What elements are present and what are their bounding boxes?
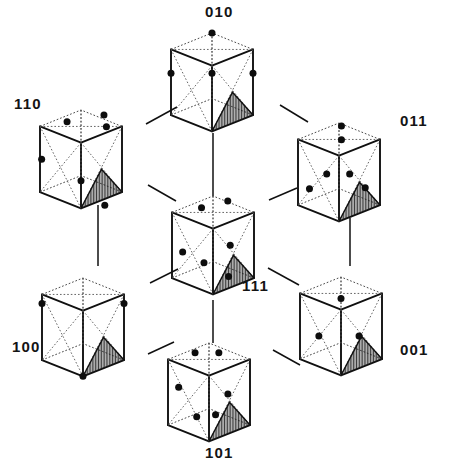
cube-010[interactable] [168,30,257,134]
atom-dot-011-0 [338,122,345,129]
atom-dot-010-1 [209,70,216,77]
cube-label-110: 110 [14,95,42,112]
hatched-triangle [339,180,379,223]
diagonal-left-face-b [42,311,83,360]
diagonal-left-face-a [171,49,212,131]
atom-dot-101-1 [215,349,222,356]
diagonal-left-face-a [298,139,339,221]
diagonal-left-face-a [172,212,213,294]
diagonal-left-face-b [40,143,81,192]
atom-dot-110-0 [64,118,71,125]
hatched-triangle [212,90,252,133]
hatched-triangle [83,335,123,378]
cube-label-011: 011 [400,112,428,129]
diagonal-left-face-a [168,359,209,441]
atom-dot-110-3 [38,156,45,163]
cube-100[interactable] [39,278,128,380]
atom-dot-101-3 [224,391,231,398]
hatched-triangle [209,400,249,443]
link-110-111 [148,185,176,201]
atom-dot-011-1 [338,136,345,143]
cube-label-001: 001 [400,341,429,358]
atom-dot-011-3 [346,171,353,178]
link-101-001 [273,350,300,365]
cube-label-100: 100 [12,338,41,355]
atom-dot-111-1 [224,197,231,204]
cube-label-010: 010 [205,3,234,20]
hatched-triangle [341,334,381,377]
atom-dot-101-4 [193,413,200,420]
atom-dot-101-0 [192,349,199,356]
diagonal-left-face-a [42,294,83,376]
atom-dot-111-3 [179,249,186,256]
cube-001[interactable] [300,277,382,377]
diagonal-left-face-b [168,376,209,425]
connectors-layer [98,105,350,365]
atom-dot-001-0 [338,295,345,302]
atom-dot-010-2 [168,70,175,77]
atom-dot-011-5 [362,184,369,191]
atom-dot-010-3 [250,70,257,77]
atom-dot-110-1 [100,111,107,118]
diagonal-left-face-a [40,126,81,208]
atom-dot-010-0 [209,30,216,37]
cube-101[interactable] [168,343,250,443]
cube-label-101: 101 [205,444,234,461]
diagonal-left-face-b [298,156,339,205]
cube-lattice-diagram: 010110011111100001101 [0,0,450,467]
atom-dot-101-2 [175,384,182,391]
atom-dot-111-5 [225,273,232,280]
cube-110[interactable] [38,110,122,210]
atom-dot-110-4 [78,177,85,184]
atom-dot-001-1 [315,332,322,339]
atom-dot-110-5 [101,202,108,209]
diagonal-left-face-b [172,229,213,278]
cube-label-111: 111 [242,277,269,294]
hatched-triangle [81,167,121,210]
link-010-011 [280,105,308,122]
labels-layer: 010110011111100001101 [12,3,429,461]
diagonal-left-face-b [171,66,212,115]
atom-dot-110-2 [103,123,110,130]
atom-dot-111-2 [227,242,234,249]
link-111-001 [268,268,299,285]
atom-dot-100-1 [121,300,128,307]
atom-dot-101-5 [212,411,219,418]
atom-dot-111-0 [198,204,205,211]
atom-dot-011-4 [306,185,313,192]
link-100-101 [148,342,174,354]
link-011-111 [269,188,297,200]
atom-dot-011-2 [323,171,330,178]
figure-root: 010110011111100001101 [0,0,450,467]
atom-dot-100-2 [80,373,87,380]
atom-dot-111-4 [200,259,207,266]
cubes-layer [38,30,382,444]
cube-011[interactable] [298,122,380,223]
atom-dot-100-0 [39,300,46,307]
atom-dot-001-2 [356,332,363,339]
